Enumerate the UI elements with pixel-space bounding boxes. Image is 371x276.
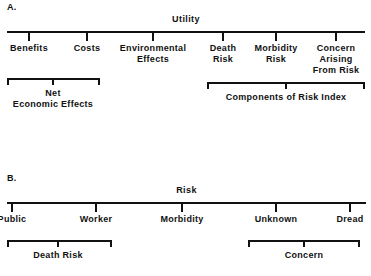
bracket-right-arm [110, 240, 112, 247]
bracket-stem [57, 240, 59, 247]
tick-label-b-0: Public [0, 214, 26, 225]
tick-label-b-4: Dread [336, 214, 363, 225]
bracket-label-b-1: Concern [285, 250, 324, 261]
tick-a-5 [335, 33, 337, 41]
tick-label-a-0: Benefits [10, 43, 48, 54]
panel-letter-a: A. [7, 2, 16, 12]
tick-a-0 [28, 33, 30, 41]
bracket-left-arm [248, 240, 250, 247]
tick-a-1 [86, 33, 88, 41]
tick-label-a-3: DeathRisk [210, 43, 237, 65]
bracket-left-arm [207, 82, 209, 89]
tick-label-b-1: Worker [80, 214, 113, 225]
tick-a-4 [275, 33, 277, 41]
bracket-a-0 [7, 78, 100, 87]
bracket-stem [303, 240, 305, 247]
axis-title-a: Utility [172, 14, 200, 24]
bracket-right-arm [363, 82, 365, 89]
tick-b-2 [181, 204, 183, 212]
tick-b-4 [349, 204, 351, 212]
bracket-label-a-1: Components of Risk Index [226, 92, 347, 103]
tick-b-1 [95, 204, 97, 212]
axis-line-a [7, 31, 365, 33]
tick-label-b-2: Morbidity [160, 214, 203, 225]
bracket-right-arm [358, 240, 360, 247]
tick-label-a-2: EnvironmentalEffects [120, 43, 186, 65]
bracket-b-1 [248, 240, 360, 249]
tick-a-3 [222, 33, 224, 41]
bracket-label-a-0: NetEconomic Effects [13, 88, 93, 110]
bracket-right-arm [98, 78, 100, 85]
bracket-a-1 [207, 82, 365, 91]
axis-title-b: Risk [176, 185, 197, 195]
bracket-left-arm [7, 78, 9, 85]
tick-b-3 [275, 204, 277, 212]
tick-b-0 [11, 204, 13, 212]
axis-line-b [7, 202, 366, 204]
bracket-top-bar [7, 240, 112, 242]
figure-canvas: A.UtilityBenefitsCostsEnvironmentalEffec… [0, 0, 371, 276]
bracket-stem [285, 82, 287, 89]
panel-letter-b: B. [7, 173, 16, 183]
tick-label-a-1: Costs [74, 43, 101, 54]
bracket-stem [52, 78, 54, 85]
tick-a-2 [152, 33, 154, 41]
bracket-b-0 [7, 240, 112, 249]
tick-label-b-3: Unknown [255, 214, 298, 225]
tick-label-a-5: ConcernArisingFrom Risk [313, 43, 360, 76]
bracket-label-b-0: Death Risk [33, 250, 83, 261]
bracket-left-arm [7, 240, 9, 247]
tick-label-a-4: MorbidityRisk [254, 43, 297, 65]
